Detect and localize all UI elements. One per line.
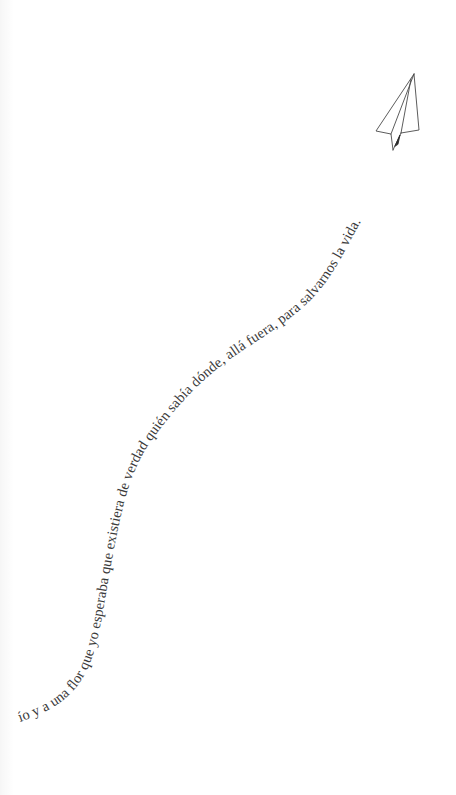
paper-plane-icon	[376, 74, 419, 150]
book-page: ío y a una flor que yo esperaba que exis…	[0, 0, 456, 795]
curved-text-path: ío y a una flor que yo esperaba que exis…	[16, 215, 364, 725]
curved-flight-text: ío y a una flor que yo esperaba que exis…	[16, 215, 364, 725]
page-illustration: ío y a una flor que yo esperaba que exis…	[0, 0, 456, 795]
